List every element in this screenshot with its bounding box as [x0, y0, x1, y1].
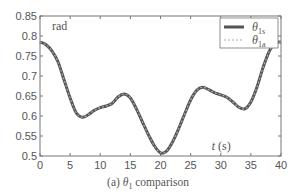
x-tick-label: 30	[215, 159, 227, 171]
caption-suffix: comparison	[132, 176, 189, 188]
x-tick-label: 40	[275, 159, 287, 171]
y-tick-label: 0.6	[22, 110, 37, 122]
legend-box	[220, 18, 278, 48]
x-tick-label: 20	[154, 159, 166, 171]
x-tick-label: 10	[94, 159, 106, 171]
y-tick-label: 0.75	[16, 50, 37, 62]
y-axis-unit-label: rad	[52, 19, 67, 33]
y-tick-label: 0.85	[16, 10, 37, 22]
figure-caption: (a) θ1 comparison	[0, 176, 296, 191]
caption-prefix: (a)	[107, 176, 123, 188]
series-line-1a	[40, 42, 281, 153]
x-tick-label: 25	[185, 159, 197, 171]
y-tick-label: 0.7	[22, 70, 37, 82]
y-tick-label: 0.5	[22, 150, 37, 162]
data-series	[40, 42, 281, 153]
line-chart: 05101520253035400.50.550.60.650.70.750.8…	[0, 0, 296, 194]
x-axis-label: t (s)	[212, 139, 231, 153]
y-tick-label: 0.55	[16, 130, 37, 142]
legend: θ1sθ1a	[220, 18, 278, 49]
x-tick-label: 35	[245, 159, 257, 171]
y-tick-label: 0.8	[22, 30, 37, 42]
x-tick-label: 0	[37, 159, 43, 171]
series-line-1s	[40, 42, 281, 153]
x-tick-label: 5	[67, 159, 73, 171]
y-tick-label: 0.65	[16, 90, 37, 102]
x-tick-label: 15	[124, 159, 136, 171]
